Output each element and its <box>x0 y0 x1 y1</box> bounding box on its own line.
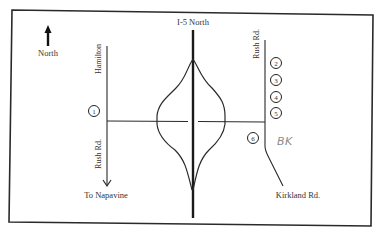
north-arrow-icon <box>45 25 52 46</box>
cross-road-east <box>198 122 265 123</box>
kirkland-label: Kirkland Rd. <box>276 190 320 200</box>
rush-rd-left-label: Rush Rd. <box>94 139 103 169</box>
marker-5: 5 <box>271 108 282 119</box>
hamilton-label: Hamilton <box>94 44 103 74</box>
svg-text:1: 1 <box>92 108 96 116</box>
interchange-ramps <box>157 59 225 190</box>
i5-label: I-5 North <box>177 17 210 27</box>
road-map-diagram: North I-5 North Hamilton Rush Rd. To Nap… <box>0 0 381 235</box>
napavine-label: To Napavine <box>84 190 128 200</box>
svg-text:4: 4 <box>274 94 278 102</box>
marker-1: 1 <box>89 106 100 117</box>
north-label: North <box>38 48 59 58</box>
marker-3: 3 <box>271 75 282 86</box>
marker-6: 6 <box>248 133 259 144</box>
rush-rd-right-label: Rush Rd. <box>252 29 261 59</box>
marker-4: 4 <box>271 92 282 103</box>
svg-text:6: 6 <box>251 135 255 143</box>
handwritten-annotation: BK <box>277 135 293 148</box>
svg-text:5: 5 <box>274 110 278 118</box>
svg-text:2: 2 <box>274 60 278 68</box>
svg-text:3: 3 <box>274 77 278 85</box>
marker-2: 2 <box>271 58 282 69</box>
cross-road-west <box>107 121 188 122</box>
